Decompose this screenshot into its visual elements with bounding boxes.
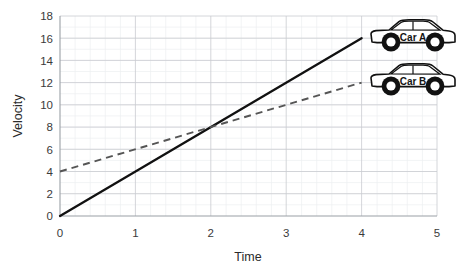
car-a-icon: Car A (371, 20, 455, 52)
car-a-label: Car A (400, 32, 426, 43)
y-axis-title: Velocity (11, 94, 25, 138)
x-tick-3: 3 (283, 227, 289, 239)
y-tick-0: 0 (47, 210, 53, 222)
x-tick-2: 2 (208, 227, 214, 239)
y-tick-2: 2 (47, 188, 53, 200)
x-tick-4: 4 (358, 227, 365, 239)
y-tick-12: 12 (40, 77, 53, 89)
y-tick-10: 10 (40, 99, 53, 111)
x-axis-title: Time (234, 250, 261, 264)
y-tick-4: 4 (47, 166, 54, 178)
x-tick-1: 1 (132, 227, 138, 239)
y-tick-6: 6 (47, 144, 53, 156)
x-tick-5: 5 (434, 227, 440, 239)
car-b-label: Car B (400, 76, 427, 87)
x-tick-0: 0 (57, 227, 63, 239)
y-tick-8: 8 (47, 121, 53, 133)
car-b-icon: Car B (371, 64, 455, 96)
y-tick-14: 14 (40, 55, 53, 67)
y-tick-16: 16 (40, 33, 53, 45)
velocity-time-chart: 18 16 14 12 10 8 6 4 2 0 0 1 2 3 4 5 Tim… (0, 0, 457, 268)
x-tick-labels: 0 1 2 3 4 5 (57, 227, 440, 239)
y-tick-18: 18 (40, 10, 53, 22)
y-tick-labels: 18 16 14 12 10 8 6 4 2 0 (40, 10, 53, 222)
chart-figure: 18 16 14 12 10 8 6 4 2 0 0 1 2 3 4 5 Tim… (0, 0, 457, 268)
